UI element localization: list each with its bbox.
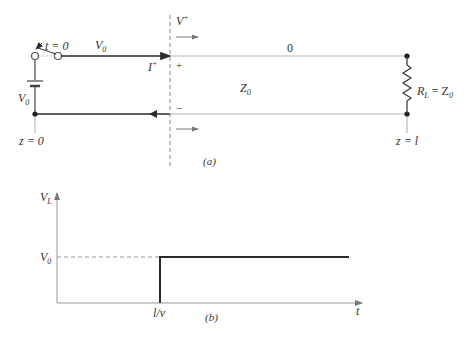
switch-left-terminal [32,53,39,60]
uncharged-voltage-label: 0 [287,41,293,55]
y-tick-label-v0: V0 [40,250,51,266]
line-impedance-label: Z0 [240,81,251,97]
y-axis-label: VL [40,190,52,206]
charged-voltage-label: V0 [95,38,106,54]
return-current-arrow-icon [149,110,157,118]
circuit-diagram: t = 0 V0 V0 0 V+ I+ + − Z0 [18,13,453,168]
transmission-line-figure: t = 0 V0 V0 0 V+ I+ + − Z0 [0,0,465,342]
load-resistor: RL = Z0 [403,53,453,133]
resistor-zigzag-icon [403,56,411,114]
load-resistance-label: RL = Z0 [416,84,453,100]
step-response-line [160,257,349,303]
wavefront-voltage-label: V+ [176,13,189,28]
minus-sign: − [176,102,182,114]
x-axis-label: t [356,304,360,318]
caption-b: (b) [205,311,218,324]
position-zl-label: z = l [395,134,419,148]
switch-time-label: t = 0 [45,39,68,53]
voltage-source: V0 [18,60,43,114]
wavefront-current-label: I+ [147,59,157,74]
source-voltage-label: V0 [18,91,29,107]
caption-a: (a) [203,155,216,168]
node-z0 [32,111,37,116]
load-voltage-plot: VL V0 l/v t (b) [40,190,362,324]
x-tick-label-lv: l/v [153,306,166,320]
position-z0-label: z = 0 [18,134,44,148]
plus-sign: + [176,59,182,71]
